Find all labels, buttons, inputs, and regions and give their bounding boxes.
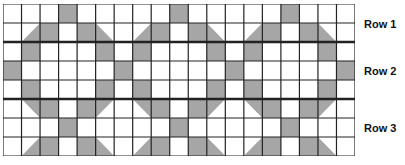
shaded-cell — [299, 23, 318, 42]
shaded-cell — [170, 118, 189, 137]
shaded-cell — [207, 137, 226, 156]
shaded-cell — [207, 99, 226, 118]
shaded-cell — [336, 61, 355, 80]
shaded-cell — [188, 23, 207, 42]
shaded-cell — [22, 99, 41, 118]
shaded-cell — [244, 42, 263, 61]
shaded-cell — [40, 99, 59, 118]
shaded-cell — [299, 137, 318, 156]
shaded-cell — [59, 118, 78, 137]
shaded-cell — [77, 137, 96, 156]
shaded-cell — [151, 23, 170, 42]
shaded-cell — [207, 80, 226, 99]
shaded-cell — [244, 99, 263, 118]
shaded-cell — [207, 42, 226, 61]
shaded-cell — [262, 99, 281, 118]
shaded-cell — [40, 137, 59, 156]
shaded-cell — [281, 4, 300, 23]
shaded-cell — [96, 99, 115, 118]
shaded-cell — [22, 80, 41, 99]
shaded-cell — [225, 61, 244, 80]
shaded-cell — [318, 80, 337, 99]
shaded-cell — [96, 137, 115, 156]
shaded-cell — [188, 137, 207, 156]
shaded-cell — [318, 42, 337, 61]
shaded-cell — [281, 118, 300, 137]
shaded-cell — [188, 99, 207, 118]
shaded-cell — [77, 99, 96, 118]
shaded-cell — [22, 23, 41, 42]
shaded-cell — [59, 4, 78, 23]
shaded-cell — [170, 4, 189, 23]
shaded-cell — [96, 23, 115, 42]
shaded-cell — [133, 137, 152, 156]
shaded-cell — [96, 42, 115, 61]
shaded-cell — [96, 80, 115, 99]
shaded-cell — [40, 23, 59, 42]
shaded-cell — [114, 61, 133, 80]
shaded-cell — [3, 61, 22, 80]
shaded-cell — [299, 99, 318, 118]
shaded-cell — [77, 23, 96, 42]
row-3-label: Row 3 — [364, 122, 396, 134]
shaded-cell — [133, 80, 152, 99]
shaded-cell — [244, 137, 263, 156]
shaded-cell — [262, 23, 281, 42]
shaded-cell — [244, 23, 263, 42]
shaded-cell — [262, 137, 281, 156]
shaded-cell — [133, 23, 152, 42]
shaded-cell — [151, 99, 170, 118]
shaded-cell — [22, 42, 41, 61]
shaded-cell — [133, 99, 152, 118]
shaded-cell — [22, 137, 41, 156]
row-1-label: Row 1 — [364, 18, 396, 30]
shaded-cell — [244, 80, 263, 99]
tile-pattern-grid — [3, 4, 355, 156]
shaded-cell — [318, 99, 337, 118]
shaded-cell — [207, 23, 226, 42]
shaded-cell — [151, 137, 170, 156]
shaded-cell — [318, 137, 337, 156]
shaded-cell — [133, 42, 152, 61]
shaded-cell — [318, 23, 337, 42]
row-2-label: Row 2 — [364, 65, 396, 77]
